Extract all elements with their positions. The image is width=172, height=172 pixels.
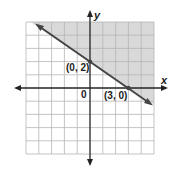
point-label-3-0: (3, 0) bbox=[104, 90, 127, 101]
y-axis-top-arrow-icon bbox=[87, 10, 93, 17]
x-axis-left-arrow-icon bbox=[14, 85, 21, 91]
origin-label: 0 bbox=[81, 89, 87, 100]
coordinate-graph: y x 0 (0, 2) (3, 0) bbox=[0, 0, 172, 172]
y-axis-label: y bbox=[93, 9, 101, 21]
x-axis-label: x bbox=[160, 74, 168, 86]
y-axis-bottom-arrow-icon bbox=[87, 159, 93, 166]
point-label-0-2: (0, 2) bbox=[66, 62, 89, 73]
